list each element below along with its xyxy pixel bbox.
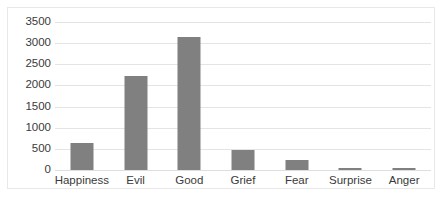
bar-slot — [324, 22, 378, 170]
y-axis-tick-label: 1000 — [9, 122, 51, 134]
bar-grief[interactable] — [231, 150, 254, 170]
plot-area — [55, 22, 431, 170]
x-axis-tick-label: Anger — [389, 174, 420, 187]
y-axis-tick-label: 0 — [9, 164, 51, 176]
bar-surprise[interactable] — [339, 168, 362, 170]
bar-chart: 0500100015002000250030003500 HappinessEv… — [0, 0, 443, 202]
y-axis-tick-label: 2000 — [9, 80, 51, 92]
y-axis-tick-label: 2500 — [9, 59, 51, 71]
x-axis-tick-label: Evil — [126, 174, 145, 187]
bar-slot — [377, 22, 431, 170]
bar-evil[interactable] — [124, 76, 147, 170]
y-axis: 0500100015002000250030003500 — [8, 22, 51, 170]
bar-good[interactable] — [178, 37, 201, 170]
bar-slot — [162, 22, 216, 170]
x-axis-tick-label: Happiness — [55, 174, 109, 187]
bar-slot — [55, 22, 109, 170]
x-axis: HappinessEvilGoodGriefFearSurpriseAnger — [55, 174, 431, 194]
bar-slot — [270, 22, 324, 170]
bar-happiness[interactable] — [70, 143, 93, 170]
bars-layer — [55, 22, 431, 170]
x-axis-tick-label: Fear — [285, 174, 309, 187]
bar-slot — [109, 22, 163, 170]
bar-fear[interactable] — [285, 160, 308, 170]
bar-anger[interactable] — [393, 168, 416, 170]
x-axis-tick-label: Grief — [231, 174, 256, 187]
y-axis-tick-label: 500 — [9, 143, 51, 155]
y-axis-tick-label: 3000 — [9, 37, 51, 49]
bar-slot — [216, 22, 270, 170]
chart-plot-frame: 0500100015002000250030003500 HappinessEv… — [7, 7, 435, 189]
axis-baseline — [55, 170, 431, 171]
y-axis-tick-label: 1500 — [9, 101, 51, 113]
x-axis-tick-label: Surprise — [329, 174, 372, 187]
y-axis-tick-label: 3500 — [9, 16, 51, 28]
x-axis-tick-label: Good — [175, 174, 203, 187]
